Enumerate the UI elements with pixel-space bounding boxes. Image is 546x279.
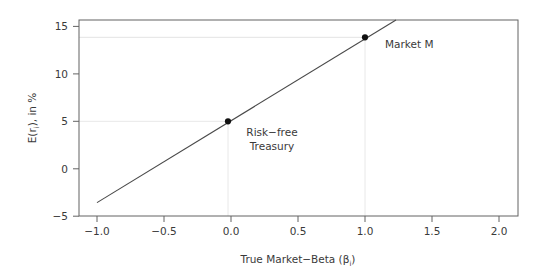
chart-figure: 15 10 5 0 −5 −1.0 −0.5 0.0 0.5 1.0 1.5 2… (0, 0, 546, 279)
x-tick-label-neg0-5: −0.5 (151, 225, 177, 237)
y-tick-label-15: 15 (55, 20, 68, 32)
security-market-line-chart: 15 10 5 0 −5 −1.0 −0.5 0.0 0.5 1.0 1.5 2… (0, 0, 546, 279)
y-axis-title-main: E(r (26, 128, 38, 144)
y-tick-label-neg5: −5 (53, 210, 68, 222)
x-axis-title-tail: ) (351, 253, 355, 265)
annotation-market-m: Market M (385, 38, 434, 50)
y-axis-title-tail: ), in % (26, 93, 38, 127)
data-point-market-m (362, 34, 368, 40)
x-tick-label-1-5: 1.5 (424, 225, 441, 237)
x-tick-label-neg1: −1.0 (84, 225, 110, 237)
x-axis-title-main: True Market−Beta (β (240, 253, 350, 265)
y-tick-label-0: 0 (61, 163, 68, 175)
annotation-risk-free-line1: Risk−free (246, 126, 297, 138)
x-tick-label-1: 1.0 (357, 225, 374, 237)
x-tick-label-0-5: 0.5 (290, 225, 307, 237)
annotation-risk-free-line2: Treasury (249, 140, 295, 152)
x-tick-label-0: 0.0 (223, 225, 240, 237)
y-tick-label-5: 5 (61, 115, 68, 127)
y-tick-label-10: 10 (55, 68, 68, 80)
data-point-risk-free-treasury (225, 118, 231, 124)
x-tick-label-2: 2.0 (491, 225, 508, 237)
